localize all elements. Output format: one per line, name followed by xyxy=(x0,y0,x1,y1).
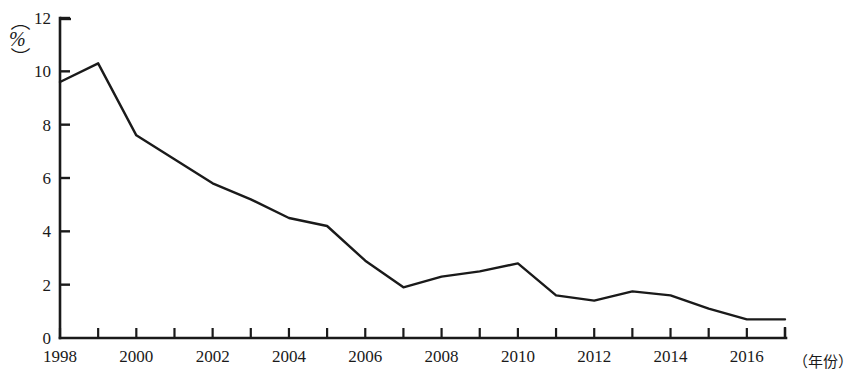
axes-group xyxy=(60,18,786,338)
x-tick-label-2008: 2008 xyxy=(425,347,459,366)
line-chart-svg: 024681012 199820002002200420062008201020… xyxy=(0,0,856,377)
y-tick-label-10: 10 xyxy=(34,62,51,81)
x-tick-label-2002: 2002 xyxy=(196,347,230,366)
x-axis-label: （年份） xyxy=(793,350,853,371)
y-tick-label-4: 4 xyxy=(43,222,52,241)
x-tick-label-2014: 2014 xyxy=(654,347,689,366)
chart-container: （ % ） 024681012 199820002002200420062008… xyxy=(0,0,856,377)
data-series-group xyxy=(60,63,785,319)
x-tick-label-2016: 2016 xyxy=(730,347,764,366)
x-tick-label-2004: 2004 xyxy=(272,347,307,366)
y-tick-label-group: 024681012 xyxy=(34,9,52,348)
x-tick-label-2012: 2012 xyxy=(577,347,611,366)
y-tick-label-6: 6 xyxy=(43,169,52,188)
y-tick-group xyxy=(60,18,70,285)
x-tick-label-2006: 2006 xyxy=(348,347,382,366)
x-tick-label-group: 1998200020022004200620082010201220142016 xyxy=(43,347,764,366)
y-tick-label-12: 12 xyxy=(34,9,51,28)
x-tick-label-1998: 1998 xyxy=(43,347,77,366)
x-tick-label-2000: 2000 xyxy=(119,347,153,366)
y-tick-label-2: 2 xyxy=(43,276,52,295)
data-line-series-1 xyxy=(60,63,785,319)
x-tick-label-2010: 2010 xyxy=(501,347,535,366)
x-tick-group xyxy=(60,328,785,338)
y-tick-label-8: 8 xyxy=(43,116,52,135)
y-tick-label-0: 0 xyxy=(43,329,52,348)
